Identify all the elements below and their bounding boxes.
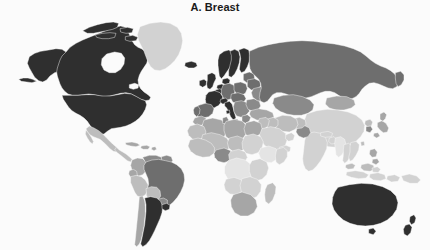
region-great-lakes-gap bbox=[129, 83, 138, 89]
region-uruguay[interactable] bbox=[162, 203, 170, 210]
figure-panel: A. Breast bbox=[0, 0, 430, 250]
world-map-container bbox=[0, 14, 430, 250]
region-iceland[interactable] bbox=[185, 61, 198, 68]
region-hispaniola[interactable] bbox=[141, 145, 150, 149]
world-choropleth-map bbox=[0, 14, 430, 250]
page-title: A. Breast bbox=[0, 1, 430, 14]
region-taiwan[interactable] bbox=[361, 141, 365, 146]
